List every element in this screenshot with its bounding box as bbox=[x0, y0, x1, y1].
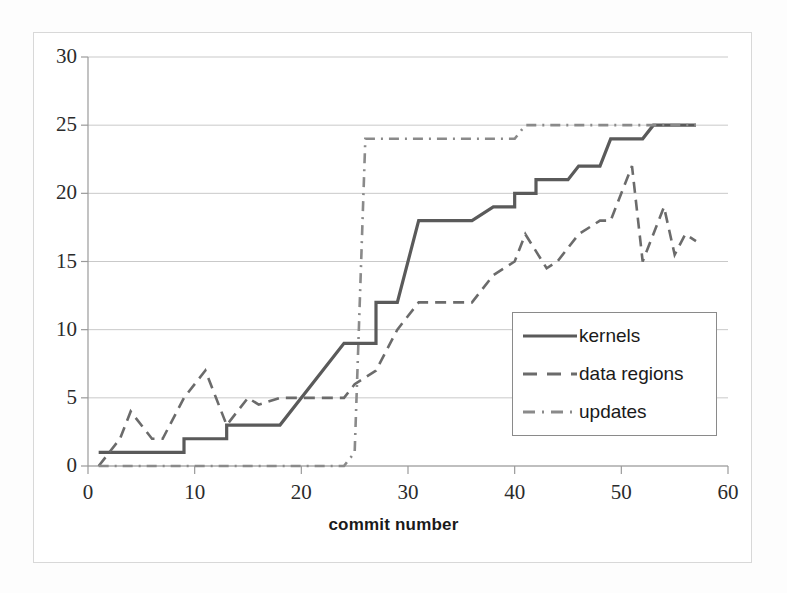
legend-swatch-updates bbox=[523, 405, 577, 419]
y-tick-label-30: 30 bbox=[33, 44, 77, 69]
legend-item-data-regions[interactable]: data regions bbox=[513, 355, 718, 393]
y-tick-label-10: 10 bbox=[33, 317, 77, 342]
x-tick-label-40: 40 bbox=[495, 480, 535, 505]
x-tick-label-30: 30 bbox=[388, 480, 428, 505]
legend-label-kernels: kernels bbox=[579, 325, 640, 347]
legend-item-kernels[interactable]: kernels bbox=[513, 317, 718, 355]
x-tick-label-20: 20 bbox=[281, 480, 321, 505]
y-tick-label-20: 20 bbox=[33, 180, 77, 205]
legend-swatch-kernels bbox=[523, 329, 577, 343]
y-tick-label-5: 5 bbox=[33, 385, 77, 410]
figure-container: 30 25 20 15 10 5 0 0 10 20 30 40 50 60 c… bbox=[0, 0, 787, 593]
y-tick-label-25: 25 bbox=[33, 112, 77, 137]
y-tick-label-0: 0 bbox=[33, 453, 77, 478]
legend-label-updates: updates bbox=[579, 401, 647, 423]
x-axis-title: commit number bbox=[0, 515, 787, 535]
legend-item-updates[interactable]: updates bbox=[513, 393, 718, 431]
y-tick-label-15: 15 bbox=[33, 249, 77, 274]
chart-legend: kernels data regions updates bbox=[512, 312, 717, 436]
x-tick-label-0: 0 bbox=[68, 480, 108, 505]
x-tick-label-50: 50 bbox=[601, 480, 641, 505]
x-tick-label-60: 60 bbox=[708, 480, 748, 505]
x-tick-label-10: 10 bbox=[175, 480, 215, 505]
legend-label-data-regions: data regions bbox=[579, 363, 684, 385]
legend-swatch-data-regions bbox=[523, 367, 577, 381]
